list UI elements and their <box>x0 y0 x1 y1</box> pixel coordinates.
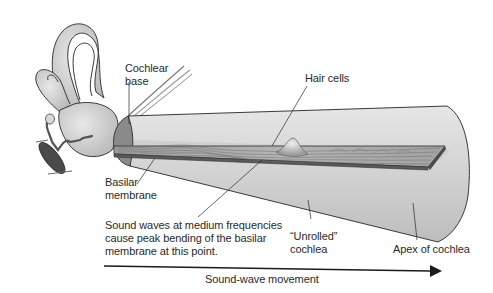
label-basilar-membrane: Basilar membrane <box>105 176 157 202</box>
label-sound-waves-line3: membrane at this point. <box>105 245 282 258</box>
label-cochlear-base-line2: base <box>125 75 168 88</box>
label-unrolled-cochlea-line2: cochlea <box>290 243 337 256</box>
label-unrolled-cochlea-line1: “Unrolled” <box>290 230 337 243</box>
label-hair-cells: Hair cells <box>305 72 349 85</box>
label-cochlear-base-line1: Cochlear <box>125 62 168 75</box>
label-cochlear-base: Cochlear base <box>125 62 168 88</box>
label-sound-waves: Sound waves at medium frequencies cause … <box>105 219 282 258</box>
label-basilar-membrane-line2: membrane <box>105 189 157 202</box>
label-apex-of-cochlea: Apex of cochlea <box>393 243 470 256</box>
cochlea-diagram: Cochlear base Hair cells Basilar membran… <box>0 0 493 293</box>
label-unrolled-cochlea: “Unrolled” cochlea <box>290 230 337 256</box>
label-basilar-membrane-line1: Basilar <box>105 176 157 189</box>
label-sound-waves-line1: Sound waves at medium frequencies <box>105 219 282 232</box>
label-sound-waves-line2: cause peak bending of the basilar <box>105 232 282 245</box>
label-sound-wave-movement: Sound-wave movement <box>205 273 319 286</box>
